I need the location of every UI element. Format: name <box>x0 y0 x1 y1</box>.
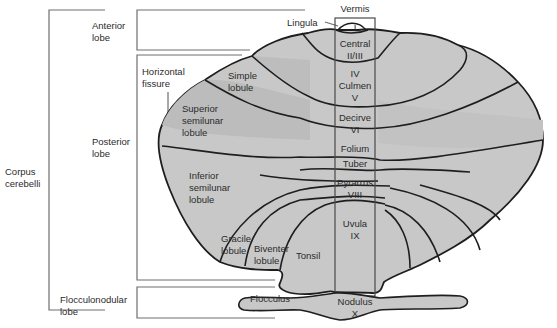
biventer-lobule-label: Biventerlobule <box>254 243 289 267</box>
nodulus-label: NodulusX <box>330 296 380 320</box>
culmen-label: IVCulmenV <box>335 68 375 104</box>
gracile-lobule-label: Gracilelobule <box>221 233 251 257</box>
cerebellum-diagram: Corpuscerebelli Anteriorlobe Posteriorlo… <box>0 0 557 328</box>
lingula-numeral: I <box>335 22 375 34</box>
vermis-title: Vermis <box>335 3 375 15</box>
corpus-cerebelli-label: Corpuscerebelli <box>5 166 40 190</box>
corpus-bracket <box>49 10 105 310</box>
flocculus-label: Flocculus <box>250 293 290 305</box>
simple-lobule-label: Simplelobule <box>228 70 257 94</box>
tuber-label: Tuber <box>335 158 375 170</box>
central-lobule-label: CentralII/III <box>335 38 375 62</box>
folium-label: Folium <box>335 143 375 155</box>
superior-semilunar-lobule-label: Superiorsemilunarlobule <box>182 103 223 139</box>
cerebellum-illustration <box>0 0 557 328</box>
tonsil-label: Tonsil <box>296 250 320 262</box>
inferior-semilunar-lobule-label: Inferiorsemilunarlobule <box>189 170 230 206</box>
declive-label: DecirveVI <box>335 112 375 136</box>
pyramis-label: PyrarrusVIII <box>333 177 377 201</box>
posterior-lobe-label: Posteriorlobe <box>92 136 130 160</box>
horizontal-fissure-label: Horizontalfissure <box>142 66 185 90</box>
flocculonodular-lobe-label: Flocculonodularlobe <box>60 294 127 318</box>
lingula-pointer-label: Lingula <box>287 17 318 29</box>
anterior-lobe-label: Anteriorlobe <box>92 20 125 44</box>
uvula-label: UvulaIX <box>335 218 375 242</box>
